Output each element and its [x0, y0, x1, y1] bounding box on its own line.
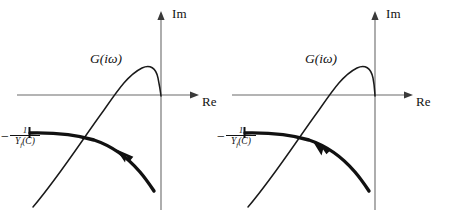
transfer-function-label: G(iω): [305, 52, 337, 66]
locus-denominator-arg: (C): [22, 136, 35, 146]
imaginary-axis-label: Im: [386, 7, 401, 20]
locus-fraction: 1 Yf(C): [226, 126, 256, 149]
g-transfer-curve: [248, 66, 375, 207]
locus-denominator: Yf(C): [230, 136, 252, 148]
real-axis-label: Re: [202, 95, 217, 108]
real-axis-label: Re: [416, 95, 431, 108]
locus-fraction: 1 Yf(C): [10, 126, 40, 149]
real-axis-arrowhead: [404, 91, 413, 98]
locus-curve: [245, 133, 369, 191]
locus-denominator-arg: (C): [238, 136, 251, 146]
locus-curve: [30, 133, 154, 191]
imaginary-axis-label: Im: [172, 7, 187, 20]
left-diagram: Im Re G(iω) − 1 Yf(C): [0, 0, 228, 218]
right-diagram-canvas: [228, 0, 456, 218]
locus-numerator: 1: [237, 126, 246, 135]
figure-root: Im Re G(iω) − 1 Yf(C): [0, 0, 456, 218]
locus-label: − 1 Yf(C): [217, 126, 256, 149]
imaginary-axis-arrowhead: [157, 11, 164, 20]
right-diagram: Im Re G(iω) − 1 Yf(C): [228, 0, 456, 218]
locus-minus-sign: −: [1, 130, 9, 144]
real-axis-arrowhead: [190, 91, 199, 98]
imaginary-axis-arrowhead: [371, 11, 378, 20]
transfer-function-label: G(iω): [90, 52, 122, 66]
locus-label: − 1 Yf(C): [1, 126, 40, 149]
locus-denominator: Yf(C): [14, 136, 36, 148]
locus-numerator: 1: [21, 126, 30, 135]
g-transfer-curve: [33, 66, 161, 207]
left-diagram-canvas: [0, 0, 228, 218]
locus-minus-sign: −: [217, 130, 225, 144]
